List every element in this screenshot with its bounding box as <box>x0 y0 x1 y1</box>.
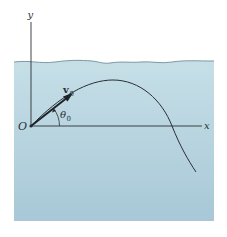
y-axis-label: y <box>27 9 34 20</box>
angle-label: θ <box>60 109 66 120</box>
x-axis-label: x <box>204 120 210 131</box>
water-region <box>14 60 214 221</box>
origin-label: O <box>18 120 27 133</box>
velocity-subscript: 0 <box>70 90 74 98</box>
projectile-diagram: y x O v 0 θ 0 <box>0 0 227 237</box>
angle-subscript: 0 <box>67 115 71 123</box>
